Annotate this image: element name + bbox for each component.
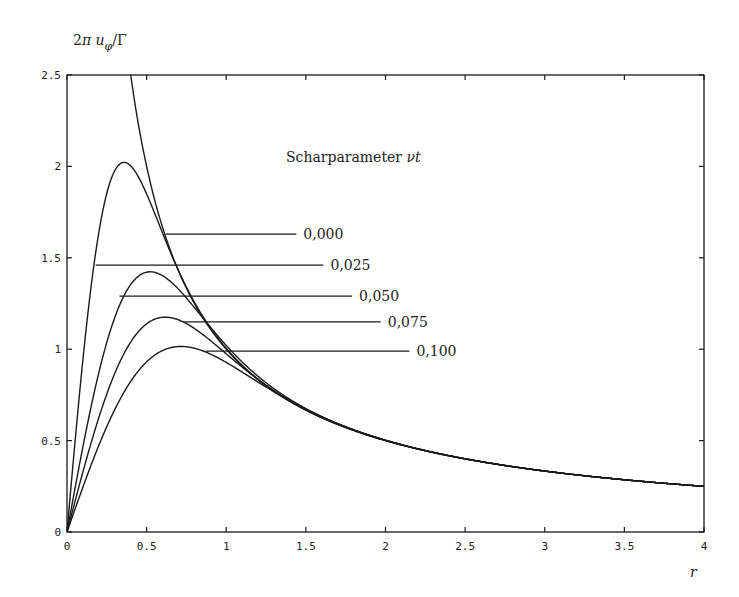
curve-nut-0-100 xyxy=(67,346,704,532)
legend-title: Scharparameter νt xyxy=(286,149,421,165)
curve-nut-0-025 xyxy=(67,162,704,532)
legend-label: 0,100 xyxy=(416,343,456,359)
x-tick-label: 3.5 xyxy=(614,540,634,553)
y-tick-label: 2.5 xyxy=(41,69,61,82)
x-tick-label: 2 xyxy=(382,540,389,553)
curve-nut-0-075 xyxy=(67,317,704,532)
x-tick-label: 0.5 xyxy=(137,540,157,553)
y-tick-label: 2 xyxy=(54,160,61,173)
curve-nut-0-000 xyxy=(128,51,704,486)
x-tick-label: 1.5 xyxy=(296,540,316,553)
y-tick-label: 1 xyxy=(54,343,61,356)
x-axis-title-text: r xyxy=(690,564,698,580)
x-tick-label: 2.5 xyxy=(455,540,475,553)
x-tick-label: 4 xyxy=(701,540,708,553)
x-tick-label: 0 xyxy=(64,540,71,553)
x-tick-label: 1 xyxy=(223,540,230,553)
y-tick-label: 0 xyxy=(54,526,61,539)
vortex-velocity-chart: 2π uφ/Γ Scharparameter νt 00.511.522.533… xyxy=(0,0,739,597)
x-axis-ticks: 00.511.522.533.54 xyxy=(64,75,708,553)
legend-label: 0,000 xyxy=(303,226,343,242)
x-tick-label: 3 xyxy=(541,540,548,553)
y-tick-label: 0.5 xyxy=(41,435,61,448)
y-tick-label: 1.5 xyxy=(41,252,61,265)
legend-title-text: Scharparameter νt xyxy=(286,149,421,165)
y-axis-title: 2π uφ/Γ xyxy=(73,32,127,53)
legend-leader-lines: 0,0000,0250,0500,0750,100 xyxy=(96,226,457,359)
legend-label: 0,050 xyxy=(359,288,399,304)
legend-label: 0,025 xyxy=(330,257,370,273)
y-axis-title-text: 2π uφ/Γ xyxy=(73,32,127,53)
x-axis-title: r xyxy=(690,564,698,580)
curve-nut-0-050 xyxy=(67,272,704,532)
legend-label: 0,075 xyxy=(388,314,428,330)
